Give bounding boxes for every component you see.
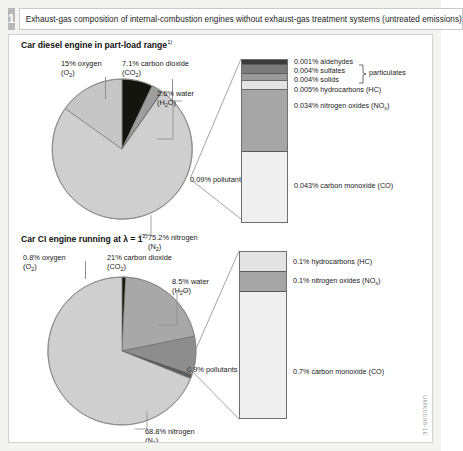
bar-diesel-seg-hydrocarbons (242, 81, 287, 90)
chart-diesel-title-text: Car diesel engine in part-load range (21, 40, 167, 50)
label-si-co: 0.7% carbon monoxide (CO) (293, 367, 384, 376)
particulates-bracket-icon (358, 64, 367, 84)
label-diesel-particulates-text: particulates (369, 68, 406, 77)
label-diesel-hydrocarbons-value: 0.005% hydrocarbons (HC) (294, 85, 381, 94)
bar-diesel (241, 59, 288, 223)
figure-title-box: Exhaust-gas composition of internal-comb… (19, 8, 463, 30)
si-callout-lines (183, 249, 245, 421)
label-diesel-hydrocarbons: 0.005% hydrocarbons (HC) (294, 85, 381, 94)
bar-diesel-seg-nitrogen-oxides (242, 90, 287, 152)
label-si-co-value: 0.7% carbon monoxide (CO) (293, 367, 384, 376)
label-si-hydrocarbons-value: 0.1% hydrocarbons (HC) (293, 257, 372, 266)
label-si-hydrocarbons: 0.1% hydrocarbons (HC) (293, 257, 372, 266)
leader-si-nitrogen (133, 409, 163, 431)
label-diesel-solids: 0.004% solids (294, 75, 339, 84)
chart-si-footnote: 2) (143, 233, 148, 239)
label-diesel-sulfates: 0.004% sulfates (294, 66, 345, 75)
bar-si (239, 251, 287, 419)
label-diesel-particulates: particulates (369, 68, 406, 77)
label-diesel-nox: 0.034% nitrogen oxides (NOx) (294, 101, 389, 114)
figure-number: 1 (8, 8, 15, 30)
label-diesel-aldehydes: 0.001% aldehydes (294, 57, 353, 66)
label-diesel-co-value: 0.043% carbon monoxide (CO) (294, 181, 393, 190)
bar-si-seg-carbon-monoxide (240, 292, 286, 418)
label-diesel-co2: 7.1% carbon dioxide (CO2) (122, 59, 189, 81)
leader-diesel-water (149, 97, 183, 145)
chart-si: Car CI engine running at λ = 12) 0.8% ox (9, 231, 433, 443)
figure-header: 1 Exhaust-gas composition of internal-co… (8, 8, 433, 30)
bar-diesel-seg-sulfates (242, 65, 287, 74)
chart-diesel-title: Car diesel engine in part-load range1) (21, 39, 172, 50)
bar-diesel-seg-solids (242, 74, 287, 81)
label-diesel-sulfates-value: 0.004% sulfates (294, 66, 345, 75)
label-si-co2-value: 21% carbon dioxide (107, 253, 172, 262)
watermark: UMK0098-1E (422, 395, 429, 436)
label-diesel-aldehydes-value: 0.001% aldehydes (294, 57, 353, 66)
label-si-oxygen: 0.8% oxygen (O2) (23, 253, 66, 275)
label-diesel-co: 0.043% carbon monoxide (CO) (294, 181, 393, 190)
bar-diesel-seg-carbon-monoxide (242, 152, 287, 222)
figure-title: Exhaust-gas composition of internal-comb… (26, 15, 462, 24)
chart-diesel: Car diesel engine in part-load range1) 1 (9, 35, 433, 231)
leader-diesel-oxygen (105, 77, 106, 99)
label-diesel-oxygen: 15% oxygen (O2) (61, 59, 102, 81)
bar-si-seg-nitrogen-oxides (240, 272, 286, 292)
label-diesel-oxygen-value: 15% oxygen (61, 59, 102, 68)
label-diesel-co2-value: 7.1% carbon dioxide (122, 59, 189, 68)
label-si-oxygen-value: 0.8% oxygen (23, 253, 66, 262)
label-diesel-solids-value: 0.004% solids (294, 75, 339, 84)
chart-si-title: Car CI engine running at λ = 12) (21, 233, 148, 244)
chart-si-title-text: Car CI engine running at λ = 1 (21, 234, 143, 244)
label-si-nox: 0.1% nitrogen oxides (NOx) (293, 276, 380, 289)
chart-diesel-footnote: 1) (167, 39, 172, 45)
diesel-callout-lines (185, 57, 247, 221)
label-si-co2: 21% carbon dioxide (CO2) (107, 253, 172, 275)
leader-si-oxygen (85, 261, 86, 279)
figure-panel: Car diesel engine in part-load range1) 1 (8, 34, 433, 443)
bar-si-seg-hydrocarbons (240, 252, 286, 272)
